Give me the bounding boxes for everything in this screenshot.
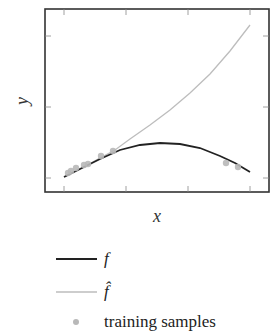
x-axis-label: x (152, 206, 161, 226)
sample-point (98, 153, 104, 159)
legend-label-samples: training samples (104, 312, 216, 331)
legend-label-f-hat: f̂ (104, 281, 112, 301)
sample-point (85, 161, 91, 167)
sample-point (235, 164, 241, 170)
sample-point (73, 165, 79, 171)
legend-swatch-samples (73, 319, 79, 325)
sample-point (223, 160, 229, 166)
plot-frame (45, 9, 269, 192)
chart: x y f f̂ training samples (0, 0, 275, 333)
legend: f f̂ training samples (56, 249, 216, 331)
sample-point (110, 148, 116, 154)
legend-label-f: f (104, 249, 111, 268)
y-axis-label: y (12, 97, 32, 107)
plot-area (45, 9, 269, 192)
